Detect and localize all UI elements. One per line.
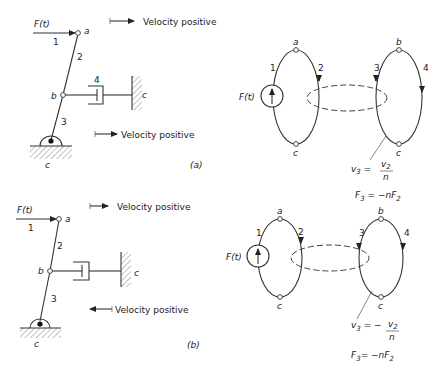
velocity-positive-bottom: Velocity positive	[90, 305, 189, 315]
ground-hatch	[20, 328, 61, 338]
panel-b-mechanism: F(t) 1 a 2 b 3 c c Velocity positive	[16, 202, 200, 350]
svg-text:c: c	[277, 301, 282, 311]
panel-a-caption: (a)	[190, 160, 203, 170]
source-label: F(t)	[239, 92, 255, 102]
svg-text:Velocity positive: Velocity positive	[117, 202, 191, 212]
svg-text:n: n	[383, 172, 389, 182]
node-b	[61, 93, 66, 98]
panel-b-caption: (b)	[187, 340, 200, 350]
graph-node-c-right	[379, 295, 384, 300]
svg-text:b: b	[378, 206, 384, 216]
svg-text:n: n	[389, 332, 395, 342]
node-a	[76, 31, 81, 36]
force-label: F(t)	[17, 205, 33, 215]
edge-4-label: 4	[404, 228, 410, 238]
node-a	[57, 217, 62, 222]
edge-1-label: 1	[270, 63, 276, 73]
node-a-label: a	[84, 26, 90, 36]
wall-hatch	[121, 252, 131, 287]
force-equation: F3 = −nF2	[355, 190, 401, 203]
lever-link-2	[63, 34, 78, 95]
node-b	[48, 269, 53, 274]
force-equation: F3= −nF2	[351, 350, 394, 363]
edge-1-label: 1	[256, 228, 262, 238]
ground-hatch	[30, 146, 72, 159]
svg-text:F3= −nF2: F3= −nF2	[351, 350, 394, 363]
svg-text:b: b	[396, 37, 402, 47]
velocity-positive-bottom: Velocity positive	[95, 130, 195, 140]
velocity-equation: v3 = v2 n	[351, 159, 393, 182]
right-loop	[376, 50, 422, 144]
node-b-label: b	[38, 266, 44, 276]
right-loop	[359, 219, 403, 297]
graph-node-c-right	[397, 142, 402, 147]
wall-label: c	[142, 90, 147, 100]
svg-text:v3 =: v3 =	[351, 164, 371, 176]
velocity-equation: v3 = − v2 n	[351, 319, 399, 342]
lever-damper-linear-graph-figure: F(t) 1 a 2 b 3 4 c c Velocity positive	[0, 0, 440, 370]
force-label: F(t)	[34, 19, 50, 29]
wall-label: c	[134, 268, 139, 278]
edge-2-label: 2	[318, 63, 324, 73]
svg-text:Velocity positive: Velocity positive	[121, 130, 195, 140]
graph-node-c-left	[278, 295, 283, 300]
svg-text:F3 = −nF2: F3 = −nF2	[355, 190, 401, 203]
svg-text:c: c	[396, 148, 401, 158]
graph-node-a	[278, 217, 283, 222]
velocity-positive-top: Velocity positive	[90, 202, 191, 212]
svg-text:c: c	[293, 148, 298, 158]
panel-b-linear-graph: F(t) 1 2 a c 3 4 b c v3 = − v2 n F3= −nF…	[226, 206, 410, 363]
link-3-label: 3	[61, 117, 67, 127]
panel-a-mechanism: F(t) 1 a 2 b 3 4 c c Velocity positive	[30, 17, 217, 170]
panel-a-linear-graph: F(t) 1 2 a c 3 4 b c v3 = v2 n F3 = −nF2	[239, 37, 429, 203]
edge-3-label: 3	[374, 63, 380, 73]
edge-2-label: 2	[298, 227, 304, 237]
source-label: F(t)	[226, 252, 242, 262]
svg-text:Velocity positive: Velocity positive	[143, 17, 217, 27]
svg-text:a: a	[277, 206, 283, 216]
lever-link-3	[40, 271, 50, 321]
graph-node-b	[379, 217, 384, 222]
transformer-coupling	[291, 245, 369, 271]
graph-node-b	[397, 48, 402, 53]
graph-node-a	[294, 48, 299, 53]
svg-text:c: c	[378, 301, 383, 311]
link-3-label: 3	[51, 294, 57, 304]
svg-text:v2: v2	[388, 319, 398, 331]
svg-text:Velocity positive: Velocity positive	[115, 305, 189, 315]
ground-label: c	[45, 160, 50, 170]
svg-text:a: a	[293, 37, 299, 47]
ground-label: c	[34, 339, 39, 349]
edge-4-label: 4	[423, 63, 429, 73]
svg-text:v3 = −: v3 = −	[351, 320, 382, 333]
svg-text:v2: v2	[381, 159, 391, 171]
force-arrow-number: 1	[53, 37, 59, 47]
damper-number: 4	[94, 75, 100, 85]
node-a-label: a	[65, 214, 71, 224]
link-2-label: 2	[57, 241, 63, 251]
link-2-label: 2	[77, 52, 83, 62]
velocity-positive-top: Velocity positive	[110, 17, 217, 27]
node-b-label: b	[51, 91, 57, 101]
force-arrow-number: 1	[28, 223, 34, 233]
graph-node-c-left	[294, 142, 299, 147]
edge-3-label: 3	[359, 228, 365, 238]
wall-hatch	[132, 76, 142, 110]
